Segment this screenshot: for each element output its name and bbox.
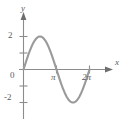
graph-figure: y x 0 2 -2 π 2π <box>0 0 127 121</box>
x-axis-arrow-icon <box>105 67 113 73</box>
graph-canvas <box>0 0 127 121</box>
y-tick-label-2: 2 <box>8 31 13 40</box>
x-tick-label-pi: π <box>51 73 56 82</box>
x-axis-label: x <box>115 58 119 67</box>
y-tick-label-neg2: -2 <box>4 93 12 102</box>
origin-label: 0 <box>10 71 15 80</box>
y-axis-label: y <box>21 4 25 13</box>
x-tick-label-2pi: 2π <box>82 73 91 82</box>
y-axis-arrow-icon <box>21 12 27 20</box>
